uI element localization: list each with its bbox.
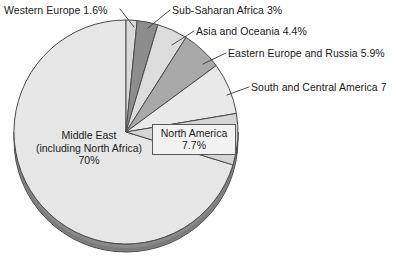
label-north-america-line2: 7.7% bbox=[156, 139, 232, 151]
label-asia-oceania: Asia and Oceania 4.4% bbox=[196, 25, 307, 37]
label-north-america-callout: North America 7.7% bbox=[152, 124, 236, 155]
label-eastern-europe-russia: Eastern Europe and Russia 5.9% bbox=[228, 47, 385, 59]
label-western-europe: Western Europe 1.6% bbox=[4, 4, 107, 16]
label-middle-east: Middle East (including North Africa) 70% bbox=[22, 129, 156, 167]
label-middle-east-line2: (including North Africa) bbox=[22, 142, 156, 155]
pie-chart-figure: Western Europe 1.6% Sub-Saharan Africa 3… bbox=[0, 0, 396, 256]
label-north-america-line1: North America bbox=[156, 127, 232, 139]
label-middle-east-line1: Middle East bbox=[22, 129, 156, 142]
label-sub-saharan-africa: Sub-Saharan Africa 3% bbox=[172, 4, 282, 16]
label-south-central-america: South and Central America 7 bbox=[251, 81, 387, 93]
label-middle-east-line3: 70% bbox=[22, 154, 156, 167]
